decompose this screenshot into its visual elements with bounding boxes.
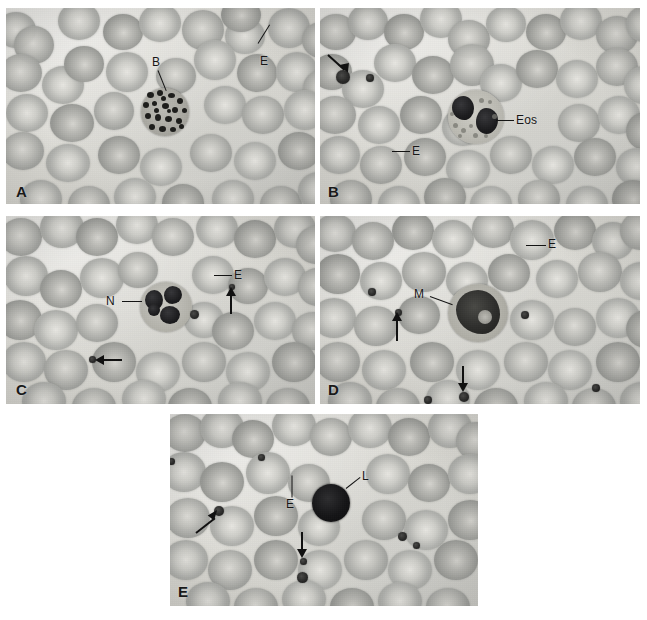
basophil-cell: [141, 88, 189, 136]
label-erythrocyte-b: E: [412, 145, 420, 157]
arrow-platelet-e-2: [296, 532, 310, 558]
label-basophil: B: [152, 56, 160, 68]
platelet-e-5: [258, 454, 265, 461]
label-neutrophil: N: [106, 295, 115, 307]
panel-letter-a: A: [16, 184, 27, 199]
platelet-e-6: [398, 532, 407, 541]
panel-letter-d: D: [328, 382, 339, 397]
arrow-platelet-d-up: [391, 313, 405, 341]
platelet-c-2: [190, 310, 199, 319]
label-monocyte: M: [414, 288, 424, 300]
panel-e: L E E: [170, 414, 478, 606]
leader-line-eosinophil: [496, 120, 514, 121]
platelet-e-3: [297, 572, 308, 583]
leader-line-erythrocyte-d: [526, 245, 546, 246]
arrow-platelet-d-down: [457, 366, 471, 392]
blood-smear-figure: B E A: [0, 0, 647, 620]
leader-line-erythrocyte-b: [392, 151, 410, 152]
platelet-d-6: [459, 392, 469, 402]
panel-c: N E C: [6, 216, 315, 404]
label-erythrocyte-a: E: [260, 55, 268, 67]
platelet-e-7: [413, 542, 420, 549]
platelet-b-2: [366, 74, 374, 82]
panel-letter-b: B: [328, 184, 339, 199]
arrow-platelet-c-2: [96, 354, 122, 366]
monocyte-cell: [448, 284, 508, 342]
eosinophil-cell: [448, 90, 504, 144]
leader-line-erythrocyte-c: [214, 275, 232, 276]
leader-line-erythrocyte-e: [292, 476, 293, 498]
platelet-d-3: [521, 311, 529, 319]
leader-line-neutrophil: [122, 301, 142, 302]
panel-a: B E A: [6, 8, 315, 204]
panel-b: Eos E B: [320, 8, 640, 204]
label-erythrocyte-e: E: [286, 498, 294, 510]
panel-letter-e: E: [178, 584, 188, 599]
arrow-platelet-e-1: [194, 510, 222, 536]
eosinophil-nucleus-lobe-1: [452, 96, 474, 120]
lymphocyte-cell: [312, 484, 350, 522]
arrow-platelet-b: [326, 52, 352, 76]
arrow-platelet-c-1: [225, 288, 239, 314]
platelet-d-5: [424, 396, 432, 404]
platelet-e-2: [300, 558, 307, 565]
label-erythrocyte-c: E: [234, 269, 242, 281]
label-lymphocyte: L: [362, 470, 369, 482]
label-eosinophil: Eos: [516, 114, 537, 126]
eosinophil-nucleus-lobe-2: [476, 108, 498, 134]
panel-d: M E D: [320, 216, 640, 404]
monocyte-nucleus: [456, 290, 500, 334]
neutrophil-cell: [140, 282, 192, 332]
platelet-d-4: [592, 384, 600, 392]
label-erythrocyte-d: E: [548, 238, 556, 250]
platelet-d-2: [368, 288, 376, 296]
panel-letter-c: C: [16, 382, 27, 397]
